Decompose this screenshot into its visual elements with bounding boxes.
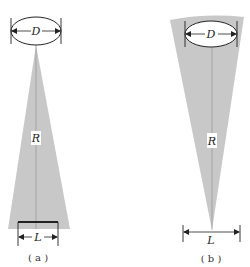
beam-geometry-diagram: D R L ( a ) D R L ( b )	[0, 0, 250, 267]
caption-a: ( a )	[28, 252, 48, 263]
r-label-b: R	[207, 135, 216, 148]
d-label-b: D	[206, 28, 216, 41]
r-label-a: R	[31, 132, 40, 145]
d-label-a: D	[31, 25, 41, 38]
beam-wedge-b	[170, 16, 244, 230]
l-label-b: L	[206, 234, 214, 247]
l-label-a: L	[33, 231, 41, 244]
caption-b: ( b )	[201, 253, 222, 264]
panel-a: D R L ( a )	[8, 17, 70, 263]
panel-b: D R L ( b )	[170, 16, 244, 264]
